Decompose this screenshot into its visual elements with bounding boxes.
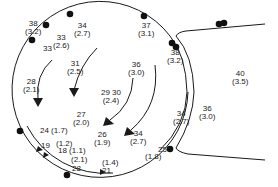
station-label: 40(3.5) xyxy=(232,70,248,86)
station-label: 28(2.1) xyxy=(23,78,39,94)
station-subvalue: (2.1) xyxy=(23,86,39,94)
station-value: 19 xyxy=(41,142,50,150)
station-dot xyxy=(67,11,74,18)
station-subvalue: (3.5) xyxy=(232,78,248,86)
station-value: 33 xyxy=(43,45,52,53)
station-subvalue: (2.7) xyxy=(130,138,146,146)
station-label: 34(2.7) xyxy=(130,130,146,146)
station-subvalue: (3.0) xyxy=(199,113,215,121)
station-label: 26(1.9) xyxy=(94,131,110,147)
station-label: 38(3.2) xyxy=(25,20,41,36)
station-label: 24 (1.7) xyxy=(40,127,68,135)
station-subvalue: (2.0) xyxy=(73,119,89,127)
station-label: 31(2.5) xyxy=(67,60,83,76)
station-dot xyxy=(64,172,71,179)
station-value: (2.1) xyxy=(71,156,87,164)
station-subvalue: (3.0) xyxy=(128,69,144,77)
station-label: 21 xyxy=(102,167,111,175)
station-label: (2.1) xyxy=(71,156,87,164)
station-label: 28 xyxy=(72,165,81,173)
station-subvalue: (2.7) xyxy=(74,30,90,38)
station-value: 21 xyxy=(102,167,111,175)
station-value: 18 (1.1) xyxy=(58,147,86,155)
exit-line-bottom xyxy=(176,148,265,160)
arrowhead-icon xyxy=(69,88,79,97)
station-dot xyxy=(141,13,148,20)
station-label: 33 xyxy=(43,45,52,53)
station-label: 37(3.1) xyxy=(138,22,154,38)
station-subvalue: (3.1) xyxy=(138,30,154,38)
station-label: 34(2.7) xyxy=(74,22,90,38)
station-label: 33(2.6) xyxy=(53,34,69,50)
station-label: 38(3.2) xyxy=(167,49,183,65)
station-dot xyxy=(221,20,228,27)
station-dot xyxy=(29,37,36,44)
station-subvalue: (2.4) xyxy=(101,97,121,105)
station-label: (1.8) xyxy=(145,153,161,161)
station-label: 36(3.0) xyxy=(199,105,215,121)
arrowhead-icon xyxy=(33,98,43,107)
station-dot xyxy=(43,22,50,29)
station-subvalue: (3.2) xyxy=(25,28,41,36)
flow-arrow-1 xyxy=(38,60,52,100)
station-label: 36(3.0) xyxy=(128,61,144,77)
station-value: (1.8) xyxy=(145,153,161,161)
station-label: 18 (1.1) xyxy=(58,147,86,155)
station-label: 27(2.0) xyxy=(73,111,89,127)
station-subvalue: (1.9) xyxy=(94,139,110,147)
station-label: 34(2.7) xyxy=(173,110,189,126)
station-value: 24 (1.7) xyxy=(40,127,68,135)
station-dot xyxy=(167,146,174,153)
station-subvalue: (3.2) xyxy=(167,57,183,65)
station-dot xyxy=(17,128,24,135)
station-value: 28 xyxy=(72,165,81,173)
station-subvalue: (2.6) xyxy=(53,42,69,50)
station-label: 29 30(2.4) xyxy=(101,89,121,105)
station-label: 19 xyxy=(41,142,50,150)
station-subvalue: (2.7) xyxy=(173,118,189,126)
station-subvalue: (2.5) xyxy=(67,68,83,76)
